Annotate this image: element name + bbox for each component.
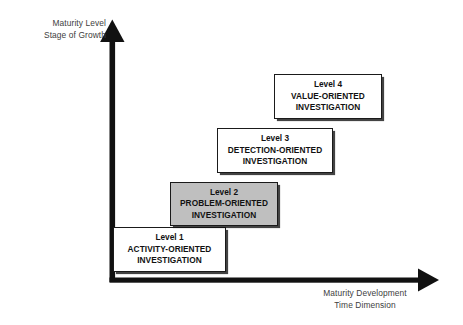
level-2-desc-line2: INVESTIGATION	[192, 210, 257, 222]
level-4-desc-line1: VALUE-ORIENTED	[291, 91, 365, 103]
level-1-desc-line1: ACTIVITY-ORIENTED	[128, 244, 212, 256]
level-3-box: Level 3 DETECTION-ORIENTED INVESTIGATION	[217, 128, 333, 173]
level-1-title: Level 1	[155, 232, 183, 244]
maturity-staircase-diagram: Maturity Level Stage of Growth Maturity …	[0, 0, 463, 325]
level-4-box: Level 4 VALUE-ORIENTED INVESTIGATION	[274, 74, 382, 119]
level-4-desc-line2: INVESTIGATION	[296, 102, 361, 114]
level-3-desc-line1: DETECTION-ORIENTED	[228, 145, 322, 157]
x-axis-label-line2: Time Dimension	[300, 299, 430, 311]
x-axis-line	[110, 278, 426, 283]
x-axis-label-line1: Maturity Development	[300, 287, 430, 299]
level-2-title: Level 2	[210, 187, 238, 199]
level-4-title: Level 4	[314, 79, 342, 91]
level-1-box: Level 1 ACTIVITY-ORIENTED INVESTIGATION	[113, 227, 226, 272]
level-3-desc-line2: INVESTIGATION	[243, 156, 308, 168]
y-axis-label-line2: Stage of Growth	[14, 29, 106, 41]
level-2-box: Level 2 PROBLEM-ORIENTED INVESTIGATION	[170, 182, 278, 226]
y-axis-label-line1: Maturity Level	[14, 17, 106, 29]
level-2-desc-line1: PROBLEM-ORIENTED	[180, 198, 268, 210]
level-3-title: Level 3	[261, 133, 289, 145]
y-axis-label: Maturity Level Stage of Growth	[14, 17, 106, 41]
x-axis-label: Maturity Development Time Dimension	[300, 287, 430, 311]
level-1-desc-line2: INVESTIGATION	[137, 255, 202, 267]
